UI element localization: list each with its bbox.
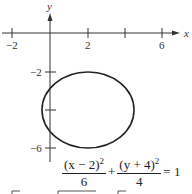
- term1-numerator: (x − 2): [64, 157, 100, 172]
- y-axis-arrow-icon: [48, 13, 53, 21]
- x-tick-label-6: 6: [159, 39, 165, 51]
- x-axis-label: x: [183, 27, 189, 39]
- term1-denominator: 6: [81, 174, 88, 190]
- fraction-term2: (y + 4)2 4: [117, 153, 161, 190]
- x-axis-arrow-icon: [172, 31, 180, 36]
- equals-one: = 1: [163, 164, 180, 180]
- x-tick-label-2: 2: [85, 39, 91, 51]
- term1-exponent: 2: [100, 156, 105, 166]
- y-tick-label-neg6: −6: [30, 142, 42, 154]
- ellipse-equation: (x − 2)2 6 + (y + 4)2 4 = 1: [62, 153, 182, 190]
- x-tick-label-neg2: −2: [6, 39, 18, 51]
- y-axis-label: y: [46, 0, 52, 12]
- fraction-term1: (x − 2)2 6: [62, 153, 106, 190]
- term2-denominator: 4: [136, 174, 143, 190]
- y-tick-label-neg2: −2: [30, 66, 42, 78]
- plus-sign: +: [108, 164, 115, 180]
- cropped-next-line: [12, 191, 126, 194]
- term2-numerator: (y + 4): [119, 157, 155, 172]
- term2-exponent: 2: [155, 156, 160, 166]
